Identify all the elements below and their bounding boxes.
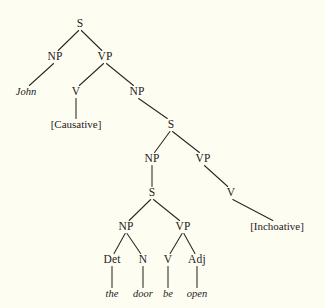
tree-node-np3: NP — [144, 152, 159, 164]
tree-terminal-door: door — [133, 288, 154, 299]
tree-node-n: N — [139, 253, 148, 265]
tree-branch — [153, 200, 179, 221]
tree-terminal-open: open — [187, 288, 207, 299]
tree-branch — [81, 31, 102, 51]
tree-branch — [79, 64, 103, 86]
tree-node-s2: S — [168, 118, 175, 130]
tree-node-adj: Adj — [188, 253, 206, 266]
tree-node-np1: NP — [47, 50, 62, 62]
tree-node-s1: S — [77, 17, 84, 29]
tree-node-vp3: VP — [175, 220, 190, 232]
tree-branch — [155, 132, 170, 153]
tree-branch — [139, 99, 168, 119]
tree-terminal-the: the — [106, 288, 119, 299]
tree-node-det: Det — [103, 253, 121, 265]
tree-node-layer: SNPVPJohnVNP[Causative]SNPVPSVNPVP[Incho… — [16, 17, 304, 299]
tree-node-v3: V — [164, 253, 173, 265]
tree-branch — [29, 64, 53, 86]
tree-branch — [58, 31, 79, 51]
tree-abstract-predicate-inchoative: [Inchoative] — [250, 220, 304, 232]
syntax-tree-canvas: SNPVPJohnVNP[Causative]SNPVPSVNPVP[Incho… — [0, 0, 325, 308]
tree-node-vp2: VP — [195, 152, 210, 164]
tree-branch — [184, 234, 195, 254]
tree-branch — [127, 234, 141, 254]
tree-branch — [170, 234, 182, 254]
tree-terminal-be: be — [163, 288, 173, 299]
tree-abstract-predicate-causative: [Causative] — [51, 118, 102, 130]
tree-node-np2: NP — [129, 85, 144, 97]
tree-branch — [204, 166, 227, 187]
tree-node-v2: V — [227, 186, 236, 198]
syntax-tree-figure: SNPVPJohnVNP[Causative]SNPVPSVNPVP[Incho… — [0, 0, 325, 308]
tree-node-v1: V — [72, 85, 81, 97]
tree-node-np4: NP — [118, 220, 133, 232]
tree-branch — [129, 200, 150, 221]
tree-branch — [106, 64, 133, 86]
tree-node-s3: S — [149, 186, 156, 198]
tree-branch — [173, 132, 200, 153]
tree-branch — [114, 234, 125, 254]
tree-node-vp1: VP — [97, 50, 112, 62]
tree-terminal-john: John — [16, 86, 36, 97]
tree-branch — [233, 200, 273, 221]
